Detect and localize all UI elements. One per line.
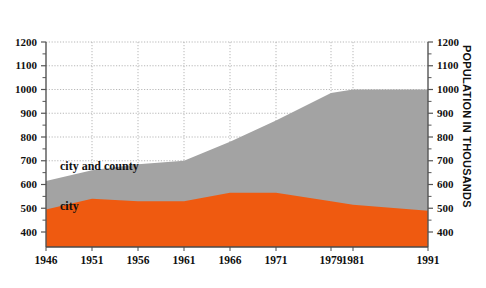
xtick-label: 1981 [342, 254, 365, 266]
ytick-label-left: 500 [21, 202, 38, 214]
xtick-label: 1991 [417, 254, 440, 266]
ytick-label-left: 900 [21, 107, 38, 119]
ytick-label-right: 700 [437, 154, 454, 166]
ytick-label-right: 800 [437, 131, 454, 143]
ytick-label-right: 1200 [437, 36, 460, 48]
population-area-chart: 400500600700800900100011001200 400500600… [0, 0, 486, 288]
xtick-label: 1946 [35, 254, 58, 266]
ytick-label-left: 400 [21, 226, 38, 238]
ytick-label-left: 700 [21, 154, 38, 166]
chart-page: 400500600700800900100011001200 400500600… [0, 0, 486, 288]
ytick-label-right: 900 [437, 107, 454, 119]
ytick-label-left: 800 [21, 131, 38, 143]
ytick-label-right: 1000 [437, 83, 460, 95]
xtick-label: 1971 [265, 254, 288, 266]
ytick-label-left: 1100 [16, 59, 38, 71]
series-inline-label: city and county [60, 159, 139, 173]
ytick-label-right: 600 [437, 178, 454, 190]
ytick-label-left: 1000 [15, 83, 38, 95]
ytick-label-right: 400 [437, 226, 454, 238]
ytick-label-left: 1200 [15, 36, 38, 48]
xtick-label: 1966 [219, 254, 242, 266]
xtick-label: 1961 [173, 254, 196, 266]
ytick-label-right: 500 [437, 202, 454, 214]
xtick-label: 1979 [320, 254, 343, 266]
xtick-label: 1956 [127, 254, 150, 266]
right-axis-title: POPULATION IN THOUSANDS [461, 45, 473, 208]
xtick-label: 1951 [81, 254, 104, 266]
ytick-label-left: 600 [21, 178, 38, 190]
series-inline-label: city [60, 199, 79, 213]
ytick-label-right: 1100 [437, 59, 459, 71]
